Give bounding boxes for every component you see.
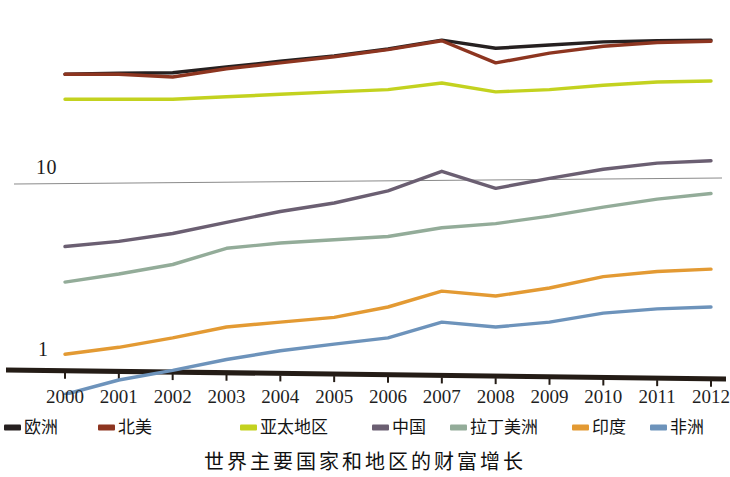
wealth-growth-chart: 10 1 20002001200220032004200520062007200…: [0, 0, 730, 477]
legend-item-欧洲[interactable]: 欧洲: [4, 419, 58, 436]
x-axis-tick-2009: 2009: [531, 386, 569, 408]
legend-swatch-icon: [450, 424, 467, 430]
legend-label: 北美: [118, 419, 152, 436]
series-line-亚太地区: [65, 81, 711, 99]
legend-label: 非洲: [670, 419, 704, 436]
x-axis-line: [6, 370, 726, 379]
legend-label: 拉丁美洲: [470, 419, 538, 436]
legend-item-印度[interactable]: 印度: [572, 419, 626, 436]
plot-area: [0, 0, 730, 395]
legend-item-拉丁美洲[interactable]: 拉丁美洲: [450, 419, 538, 436]
x-axis-tick-2012: 2012: [692, 386, 730, 408]
legend-swatch-icon: [98, 424, 115, 430]
series-line-中国: [65, 161, 711, 247]
series-line-拉丁美洲: [65, 194, 711, 283]
x-axis-tick-2005: 2005: [315, 386, 353, 408]
x-axis-tick-2008: 2008: [477, 386, 515, 408]
legend-item-非洲[interactable]: 非洲: [650, 419, 704, 436]
x-axis-tick-2010: 2010: [584, 386, 622, 408]
legend-swatch-icon: [4, 424, 21, 430]
legend-swatch-icon: [372, 424, 389, 430]
gridline-10: [14, 178, 722, 184]
legend-swatch-icon: [240, 424, 257, 430]
chart-legend: 欧洲北美亚太地区中国拉丁美洲印度非洲: [0, 414, 730, 440]
x-axis-labels: 2000200120022003200420052006200720082009…: [0, 386, 730, 412]
legend-swatch-icon: [650, 424, 667, 430]
legend-item-北美[interactable]: 北美: [98, 419, 152, 436]
chart-caption: 世界主要国家和地区的财富增长: [0, 446, 730, 475]
x-axis-tick-2006: 2006: [369, 386, 407, 408]
legend-label: 中国: [392, 419, 426, 436]
x-axis-tick-2000: 2000: [46, 386, 84, 408]
x-axis-tick-2001: 2001: [100, 386, 138, 408]
y-axis-tick-1: 1: [38, 338, 49, 361]
legend-label: 印度: [592, 419, 626, 436]
chart-canvas: [0, 0, 730, 395]
x-axis-tick-2007: 2007: [423, 386, 461, 408]
legend-label: 亚太地区: [260, 419, 328, 436]
legend-item-亚太地区[interactable]: 亚太地区: [240, 419, 328, 436]
x-axis-tick-2002: 2002: [154, 386, 192, 408]
x-axis-tick-2004: 2004: [261, 386, 299, 408]
x-axis-tick-2003: 2003: [208, 386, 246, 408]
y-axis-tick-10: 10: [36, 156, 57, 179]
legend-item-中国[interactable]: 中国: [372, 419, 426, 436]
legend-label: 欧洲: [24, 419, 58, 436]
legend-swatch-icon: [572, 424, 589, 430]
x-axis-tick-2011: 2011: [639, 386, 676, 408]
